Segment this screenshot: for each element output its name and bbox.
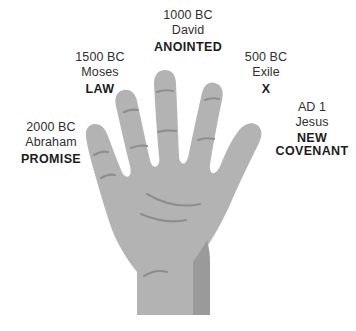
label-exile-date: 500 BC bbox=[228, 50, 304, 65]
label-law-date: 1500 BC bbox=[56, 50, 144, 65]
hand-body-shape bbox=[86, 70, 262, 315]
label-exile: 500 BC Exile X bbox=[228, 50, 304, 96]
label-new-covenant-theme-line1: NEW bbox=[268, 132, 356, 146]
timeline-hand-graphic: 2000 BC Abraham PROMISE 1500 BC Moses LA… bbox=[0, 0, 356, 331]
hand-silhouette bbox=[86, 70, 262, 315]
label-anointed-person: David bbox=[138, 23, 238, 38]
label-law-person: Moses bbox=[56, 65, 144, 80]
label-law-theme: LAW bbox=[56, 82, 144, 97]
label-exile-person: Exile bbox=[228, 65, 304, 80]
label-new-covenant: AD 1 Jesus NEW COVENANT bbox=[268, 100, 356, 159]
label-exile-theme: X bbox=[228, 82, 304, 97]
label-anointed: 1000 BC David ANOINTED bbox=[138, 8, 238, 54]
label-promise-date: 2000 BC bbox=[2, 120, 100, 135]
label-promise-person: Abraham bbox=[2, 135, 100, 150]
label-anointed-theme: ANOINTED bbox=[138, 40, 238, 55]
label-anointed-date: 1000 BC bbox=[138, 8, 238, 23]
label-new-covenant-date: AD 1 bbox=[268, 100, 356, 115]
label-new-covenant-person: Jesus bbox=[268, 115, 356, 130]
label-law: 1500 BC Moses LAW bbox=[56, 50, 144, 96]
label-promise-theme: PROMISE bbox=[2, 152, 100, 167]
label-new-covenant-theme-line2: COVENANT bbox=[268, 145, 356, 159]
label-promise: 2000 BC Abraham PROMISE bbox=[2, 120, 100, 166]
